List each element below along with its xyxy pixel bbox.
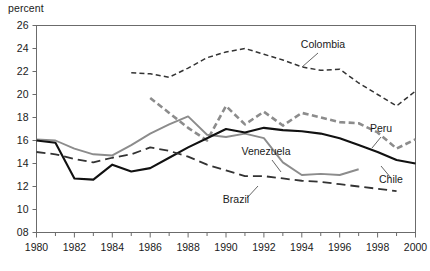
series-label-venezuela: Venezuela	[241, 145, 290, 157]
x-tick-label: 1988	[176, 241, 200, 253]
chart-container: percent 08101214161820222426 19801982198…	[0, 0, 430, 271]
line-chart-plot: 08101214161820222426 1980198219841986198…	[0, 0, 430, 271]
x-tick-label: 1998	[366, 241, 390, 253]
x-tick-label: 1990	[214, 241, 238, 253]
x-tick-label: 1986	[139, 241, 163, 253]
y-tick-label: 22	[17, 65, 29, 77]
x-axis-ticks: 1980198219841986198819901992199419961998…	[25, 233, 428, 253]
x-tick-label: 1984	[101, 241, 125, 253]
y-tick-label: 08	[17, 226, 29, 238]
series-label-brazil: Brazil	[223, 193, 249, 205]
x-tick-label: 1982	[63, 241, 87, 253]
y-tick-label: 12	[17, 180, 29, 192]
y-tick-label: 20	[17, 88, 29, 100]
x-tick-label: 2000	[404, 241, 428, 253]
series-label-colombia: Colombia	[301, 38, 346, 50]
x-tick-label: 1980	[25, 241, 49, 253]
y-tick-label: 24	[17, 42, 29, 54]
y-tick-label: 16	[17, 134, 29, 146]
series-label-peru: Peru	[370, 122, 392, 134]
y-axis-ticks: 08101214161820222426	[17, 19, 37, 238]
x-tick-label: 1994	[290, 241, 314, 253]
x-tick-label: 1996	[328, 241, 352, 253]
series-label-chile: Chile	[379, 173, 403, 185]
y-tick-label: 10	[17, 203, 29, 215]
y-tick-label: 18	[17, 111, 29, 123]
x-tick-label: 1992	[252, 241, 276, 253]
y-tick-label: 26	[17, 19, 29, 31]
y-tick-label: 14	[17, 157, 29, 169]
